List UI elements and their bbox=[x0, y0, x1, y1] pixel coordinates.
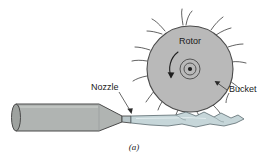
water-jet bbox=[131, 112, 244, 127]
bucket-icon bbox=[211, 17, 223, 30]
figure-caption: (a) bbox=[129, 142, 140, 152]
figure-container: Rotor Nozzle Bucket bbox=[0, 0, 274, 157]
bucket-icon bbox=[186, 11, 192, 25]
bucket-icon bbox=[135, 47, 150, 50]
bucket-label: Bucket bbox=[229, 84, 257, 94]
rotor-label: Rotor bbox=[179, 36, 201, 46]
bucket-icon bbox=[228, 44, 243, 47]
nozzle-label: Nozzle bbox=[91, 82, 119, 92]
bucket-icon bbox=[231, 62, 246, 63]
bucket-icon bbox=[182, 9, 183, 25]
pelton-wheel-diagram: Rotor Nozzle Bucket bbox=[0, 0, 274, 157]
pipe-open-end bbox=[12, 104, 21, 131]
nozzle-leader-arrowhead-icon bbox=[127, 108, 133, 114]
bucket-leader-branch bbox=[226, 93, 229, 103]
bucket-icon bbox=[133, 76, 147, 81]
bucket-icon bbox=[152, 19, 165, 31]
nozzle-pipe bbox=[12, 104, 132, 131]
rotor-shaft-dot-icon bbox=[188, 67, 192, 71]
bucket-icon bbox=[216, 28, 231, 35]
bucket-icon bbox=[132, 60, 147, 61]
bucket-icon bbox=[147, 31, 162, 34]
